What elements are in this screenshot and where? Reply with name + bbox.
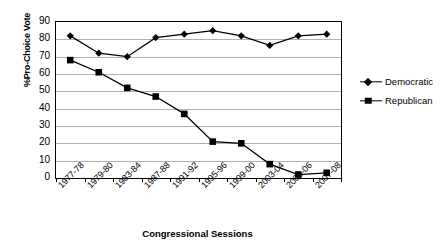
legend-item-democratic[interactable]: Democratic: [360, 72, 445, 91]
x-tick-label: 1999-00: [227, 160, 257, 190]
x-tick-label: 1977-78: [56, 160, 86, 190]
x-tick-label: 1995-96: [199, 160, 229, 190]
legend-label: Republican: [385, 96, 433, 106]
chart-container: %Pro-Choice Vote 9080706050403020100 197…: [0, 0, 445, 248]
x-tick-label: 2005-06: [284, 160, 314, 190]
x-axis-title: Congressional Sessions: [55, 228, 340, 239]
x-tick-label: 1991-92: [170, 160, 200, 190]
x-tick-label: 1987-88: [142, 160, 172, 190]
square-marker-icon: [360, 95, 382, 107]
x-tick-label: 1979-80: [85, 160, 115, 190]
x-axis-category-labels: 1977-781979-801983-841987-881991-921995-…: [0, 0, 445, 248]
chart-legend: Democratic Republican: [360, 72, 445, 110]
x-tick-label: 2007-08: [313, 160, 343, 190]
x-tick-label: 1983-84: [113, 160, 143, 190]
diamond-marker-icon: [360, 76, 382, 88]
legend-label: Democratic: [385, 77, 433, 87]
x-tick-label: 2003-04: [256, 160, 286, 190]
legend-item-republican[interactable]: Republican: [360, 91, 445, 110]
